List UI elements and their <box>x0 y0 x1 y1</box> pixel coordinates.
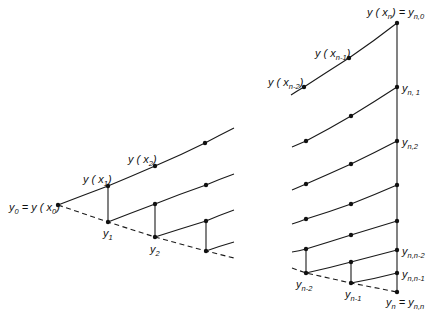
right-curve-2 <box>292 141 397 190</box>
label-yn1: yn, 1 <box>401 82 420 97</box>
local-solution-curve-2 <box>155 210 234 237</box>
label-yxn-2: y ( xn-2) <box>267 76 304 91</box>
label-yx2: y ( x2) <box>127 153 157 168</box>
label-yxn-equals-yn0: y ( xn) = yn,0 <box>366 6 425 21</box>
label-y1: y1 <box>102 227 113 242</box>
right-panel: y ( xn) = yn,0 y ( xn-1) y ( xn-2) yn, 1… <box>267 6 425 311</box>
label-y2: y2 <box>149 243 161 258</box>
label-yxn-1: y ( xn-1) <box>314 47 351 62</box>
right-curve-6 <box>351 273 397 283</box>
label-ynn-2: yn,n-2 <box>401 245 425 260</box>
right-curve-4 <box>292 221 397 252</box>
local-solution-curve-1 <box>108 174 234 222</box>
label-yn2: yn,2 <box>401 136 419 151</box>
label-yn-equals-ynn: yn = yn,n <box>385 296 424 311</box>
label-y0-equals-yx0: y0 = y ( x0) <box>8 201 60 216</box>
exact-solution-curve <box>58 128 234 205</box>
label-y-n-1: yn-1 <box>344 288 361 303</box>
right-curve-1 <box>292 87 397 147</box>
extrapolation-diagram: y0 = y ( x0) y ( x1) y ( x2) y1 y2 <box>0 0 436 318</box>
label-y-n-2: yn-2 <box>295 278 313 293</box>
label-yx1: y ( x1) <box>82 173 112 188</box>
left-panel: y0 = y ( x0) y ( x1) y ( x2) y1 y2 <box>8 128 234 258</box>
label-ynn-1: yn,n-1 <box>401 268 425 283</box>
local-solution-curve-3 <box>206 242 234 251</box>
